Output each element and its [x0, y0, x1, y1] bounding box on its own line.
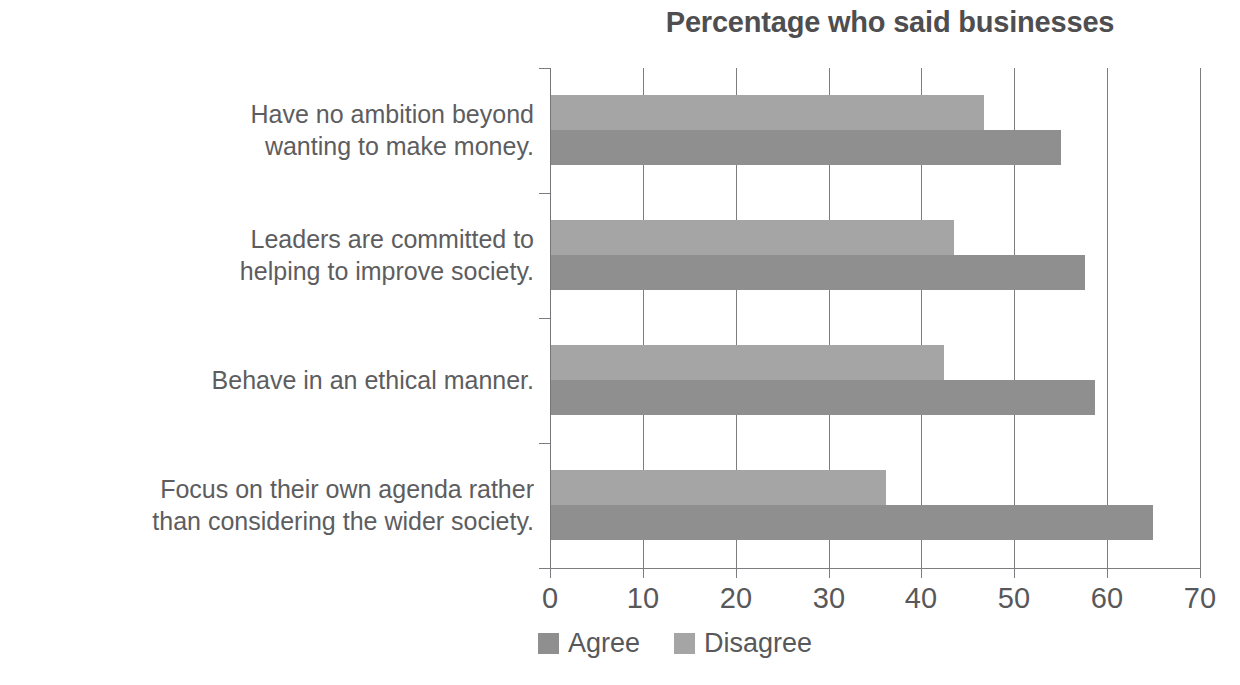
bar-agree[interactable]	[551, 380, 1095, 415]
category-label: Behave in an ethical manner.	[212, 364, 534, 396]
x-tick-label-30: 30	[799, 582, 859, 615]
bar-chart: Percentage who said businesses Have no a…	[0, 0, 1240, 685]
legend-item-agree[interactable]: Agree	[538, 628, 640, 659]
bar-disagree[interactable]	[551, 470, 886, 505]
bar-group	[551, 318, 1200, 443]
y-tick-1	[539, 193, 550, 194]
category-label: Have no ambition beyondwanting to make m…	[250, 98, 534, 162]
bar-group	[551, 193, 1200, 318]
x-tick-30	[829, 568, 830, 578]
x-tick-40	[921, 568, 922, 578]
x-tick-50	[1014, 568, 1015, 578]
y-tick-4	[539, 568, 550, 569]
x-tick-label-10: 10	[613, 582, 673, 615]
category-label-line: Focus on their own agenda rather	[152, 473, 534, 505]
x-tick-label-20: 20	[706, 582, 766, 615]
legend-swatch-icon	[674, 633, 695, 654]
bar-group	[551, 68, 1200, 193]
chart-title: Percentage who said businesses	[560, 6, 1220, 39]
x-tick-70	[1200, 568, 1201, 578]
category-label: Focus on their own agenda ratherthan con…	[152, 473, 534, 537]
category-label: Leaders are committed tohelping to impro…	[240, 223, 534, 287]
x-tick-10	[643, 568, 644, 578]
bar-group	[551, 443, 1200, 568]
bar-disagree[interactable]	[551, 95, 984, 130]
x-tick-label-50: 50	[984, 582, 1044, 615]
category-label-line: Have no ambition beyond	[250, 98, 534, 130]
category-label-line: Behave in an ethical manner.	[212, 364, 534, 396]
bar-disagree[interactable]	[551, 345, 944, 380]
bar-agree[interactable]	[551, 130, 1061, 165]
x-tick-label-60: 60	[1077, 582, 1137, 615]
gridline-70	[1200, 68, 1201, 568]
legend-label: Agree	[568, 628, 640, 659]
legend-label: Disagree	[704, 628, 812, 659]
x-tick-0	[550, 568, 551, 578]
category-label-line: than considering the wider society.	[152, 505, 534, 537]
plot-area	[550, 68, 1200, 568]
x-tick-20	[736, 568, 737, 578]
legend-item-disagree[interactable]: Disagree	[674, 628, 812, 659]
y-tick-2	[539, 318, 550, 319]
category-label-line: Leaders are committed to	[240, 223, 534, 255]
x-axis-line	[550, 568, 1201, 569]
category-label-line: helping to improve society.	[240, 255, 534, 287]
legend-swatch-icon	[538, 633, 559, 654]
y-tick-0	[539, 68, 550, 69]
bar-agree[interactable]	[551, 505, 1153, 540]
x-tick-label-40: 40	[891, 582, 951, 615]
category-label-line: wanting to make money.	[250, 130, 534, 162]
y-tick-3	[539, 443, 550, 444]
x-tick-60	[1107, 568, 1108, 578]
bar-agree[interactable]	[551, 255, 1085, 290]
x-tick-label-70: 70	[1170, 582, 1230, 615]
x-tick-label-0: 0	[520, 582, 580, 615]
bar-disagree[interactable]	[551, 220, 954, 255]
chart-legend: AgreeDisagree	[0, 628, 1240, 659]
